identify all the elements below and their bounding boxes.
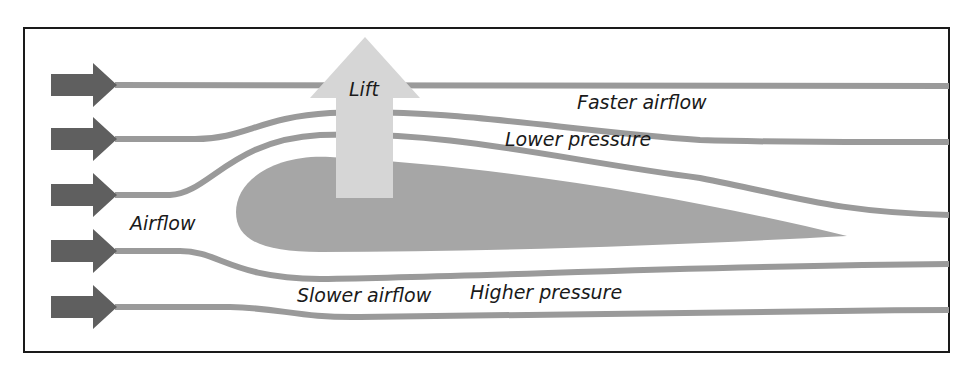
lower-pressure-label: Lower pressure (505, 128, 651, 150)
airflow-label: Airflow (128, 212, 196, 234)
airfoil-diagram: Lift Faster airflow Lower pressure Airfl… (0, 0, 970, 375)
streamline-1 (115, 85, 949, 86)
faster-airflow-label: Faster airflow (577, 91, 707, 113)
slower-airflow-label: Slower airflow (297, 284, 432, 306)
lift-label: Lift (349, 78, 381, 100)
higher-pressure-label: Higher pressure (470, 281, 622, 303)
